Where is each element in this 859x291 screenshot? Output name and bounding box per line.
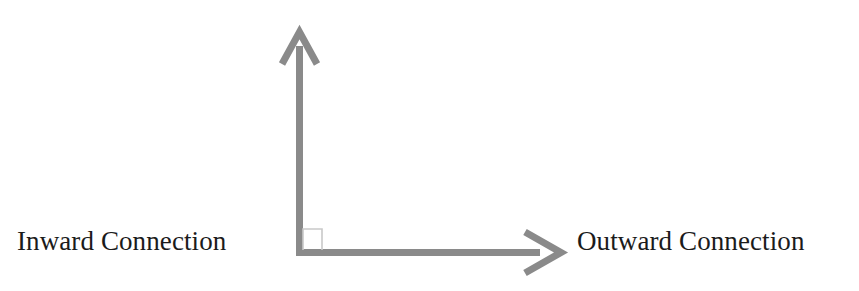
diagram-canvas: Inward Connection Outward Connection bbox=[0, 0, 859, 291]
outward-connection-label: Outward Connection bbox=[577, 228, 805, 255]
inward-connection-label: Inward Connection bbox=[17, 228, 226, 255]
right-angle-marker-icon bbox=[303, 229, 322, 250]
